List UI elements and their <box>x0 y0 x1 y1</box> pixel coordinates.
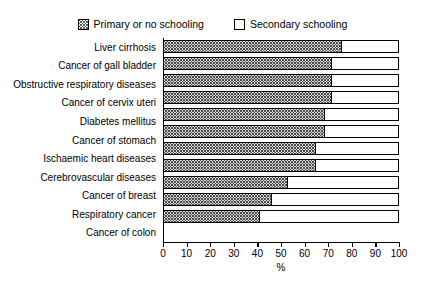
x-axis-tick-label: 90 <box>370 248 381 259</box>
bar-segment-secondary <box>332 58 398 69</box>
legend-label-secondary: Secondary schooling <box>250 19 347 30</box>
x-axis-ticks <box>163 242 399 247</box>
chart-legend: Primary or no schooling Secondary school… <box>0 16 425 32</box>
bar-series-container <box>164 38 399 225</box>
y-axis-category-labels: Liver cirrhosisCancer of gall bladderObs… <box>0 38 160 242</box>
bar-row <box>164 72 399 89</box>
bar-segment-primary <box>164 194 272 205</box>
legend-item-secondary: Secondary schooling <box>234 19 347 30</box>
bar-segment-primary <box>164 109 325 120</box>
y-axis-label: Ischaemic heart diseases <box>0 149 160 168</box>
x-axis-title: % <box>163 262 399 273</box>
bar-segment-primary <box>164 143 316 154</box>
y-axis-label: Cancer of cervix uteri <box>0 94 160 113</box>
bar-segment-secondary <box>260 211 398 222</box>
x-axis-tick-mark <box>281 242 282 247</box>
x-axis-tick-mark <box>305 242 306 247</box>
bar-row <box>164 191 399 208</box>
bar-segment-secondary <box>288 177 398 188</box>
legend-label-primary: Primary or no schooling <box>94 19 204 30</box>
bar-row <box>164 140 399 157</box>
bar-row <box>164 55 399 72</box>
x-axis-tick-label: 70 <box>323 248 334 259</box>
y-axis-label: Obstructive respiratory diseases <box>0 75 160 94</box>
x-axis-tick-label: 40 <box>252 248 263 259</box>
y-axis-label: Cancer of gall bladder <box>0 57 160 76</box>
bar-row <box>164 38 399 55</box>
x-axis-tick-mark <box>328 242 329 247</box>
bar-segment-primary <box>164 58 332 69</box>
bar-segment-primary <box>164 92 332 103</box>
stacked-bar <box>164 74 399 87</box>
bar-row <box>164 123 399 140</box>
legend-item-primary: Primary or no schooling <box>78 19 204 30</box>
x-axis-tick-mark <box>234 242 235 247</box>
bar-segment-secondary <box>332 75 398 86</box>
stacked-bar <box>164 108 399 121</box>
x-axis-tick-label: 80 <box>346 248 357 259</box>
bar-segment-secondary <box>332 92 398 103</box>
bar-row <box>164 89 399 106</box>
x-axis-tick-label: 10 <box>181 248 192 259</box>
x-axis-tick-mark <box>257 242 258 247</box>
bar-segment-primary <box>164 75 332 86</box>
stacked-bar <box>164 193 399 206</box>
y-axis-label: Cerebrovascular diseases <box>0 168 160 187</box>
bar-segment-primary <box>164 177 288 188</box>
x-axis-tick-mark <box>163 242 164 247</box>
x-axis-tick-label: 0 <box>160 248 166 259</box>
x-axis-tick-label: 20 <box>205 248 216 259</box>
x-axis-tick-label: 60 <box>299 248 310 259</box>
x-axis-tick-mark <box>399 242 400 247</box>
chart-plot-area: Liver cirrhosisCancer of gall bladderObs… <box>0 38 425 253</box>
bar-segment-secondary <box>316 160 398 171</box>
bar-segment-primary <box>164 41 342 52</box>
bar-segment-secondary <box>325 126 398 137</box>
y-axis-label: Respiratory cancer <box>0 205 160 224</box>
stacked-bar <box>164 91 399 104</box>
bar-segment-primary <box>164 160 316 171</box>
bar-row <box>164 174 399 191</box>
y-axis-label: Liver cirrhosis <box>0 38 160 57</box>
bar-segment-primary <box>164 126 325 137</box>
stacked-bar <box>164 57 399 70</box>
bar-segment-secondary <box>272 194 398 205</box>
stacked-bar <box>164 159 399 172</box>
bar-segment-primary <box>164 211 260 222</box>
legend-swatch-secondary-icon <box>234 19 245 30</box>
bar-segment-secondary <box>342 41 398 52</box>
bar-row <box>164 106 399 123</box>
stacked-bar <box>164 142 399 155</box>
bar-row <box>164 208 399 225</box>
stacked-bar <box>164 176 399 189</box>
x-axis-tick-label: 100 <box>391 248 408 259</box>
stacked-bar <box>164 210 399 223</box>
x-axis-tick-label: 30 <box>228 248 239 259</box>
bar-row <box>164 157 399 174</box>
bar-segment-secondary <box>325 109 398 120</box>
x-axis-tick-labels: 0102030405060708090100 <box>163 248 399 261</box>
bar-segment-secondary <box>316 143 398 154</box>
stacked-bar <box>164 40 399 53</box>
y-axis-label: Cancer of stomach <box>0 131 160 150</box>
x-axis-tick-label: 50 <box>275 248 286 259</box>
x-axis-tick-mark <box>187 242 188 247</box>
x-axis-tick-mark <box>210 242 211 247</box>
legend-swatch-primary-icon <box>78 19 89 30</box>
stacked-bar <box>164 125 399 138</box>
plot-frame <box>163 38 399 242</box>
x-axis-tick-mark <box>375 242 376 247</box>
y-axis-label: Diabetes mellitus <box>0 112 160 131</box>
x-axis-tick-mark <box>352 242 353 247</box>
y-axis-label: Cancer of colon <box>0 223 160 242</box>
y-axis-label: Cancer of breast <box>0 186 160 205</box>
